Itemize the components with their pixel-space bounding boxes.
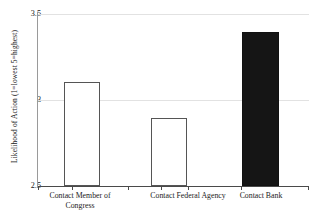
x-category-label-line-1: Contact Member of — [49, 191, 110, 200]
x-category-label-line-1: Contact Bank — [240, 191, 283, 200]
x-tick-3 — [161, 186, 162, 190]
gridline-3-5 — [38, 14, 309, 15]
x-axis-line — [38, 186, 309, 187]
x-tick-0 — [38, 186, 39, 190]
x-category-label-contact-bank: Contact Bank — [222, 191, 300, 201]
y-tick-label-3-5: 3.5 — [7, 10, 41, 18]
x-category-label-line-1: Contact Federal Agency — [150, 191, 225, 200]
bar-contact-member-of-congress — [64, 82, 100, 186]
y-tick-label-2-5: 2.5 — [7, 182, 41, 190]
y-tick-label-3: 3 — [7, 96, 41, 104]
x-category-label-contact-member-of-congress: Contact Member of Congress — [26, 191, 134, 210]
plot-area — [38, 14, 309, 186]
bar-contact-federal-agency — [151, 118, 187, 186]
x-tick-6 — [308, 186, 309, 190]
bar-contact-bank — [242, 32, 279, 186]
x-tick-4 — [188, 186, 189, 190]
bar-chart: Likelihood of Action (1=lowest 5=highest… — [0, 0, 309, 220]
x-category-label-line-2: Congress — [26, 201, 134, 211]
x-tick-1 — [72, 186, 73, 190]
x-tick-5 — [241, 186, 242, 190]
x-tick-2 — [128, 186, 129, 190]
